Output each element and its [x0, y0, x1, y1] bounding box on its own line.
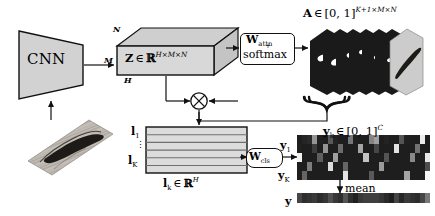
local-feature-first-label: l1	[131, 126, 140, 140]
lk-caption-membership: ∈	[173, 177, 181, 190]
logits-label: yk∈[0, 1]C	[323, 124, 383, 139]
wcls-label: Wcls	[249, 151, 270, 165]
brace-attention-maps	[304, 97, 349, 110]
yk-superscript: C	[377, 123, 382, 132]
lk-caption-superscript: H	[193, 176, 199, 184]
input-image	[28, 120, 113, 175]
z-superscript: H×M×N	[155, 50, 187, 59]
logits-heatmap	[297, 135, 430, 180]
output-vector-label: y	[285, 196, 291, 207]
feature-tensor-label: Z∈ℝH×M×N	[125, 51, 187, 64]
y1-subscript: 1	[286, 146, 290, 154]
heatmap-cell	[425, 144, 430, 153]
yk-membership: ∈	[336, 124, 345, 138]
heatmap-cell	[425, 135, 430, 144]
heatmap-cell	[425, 162, 430, 171]
yK-subscript: K	[284, 176, 289, 184]
local-feature-space-label: lk∈ℝH	[163, 177, 199, 192]
wcls-symbol: W	[249, 150, 261, 162]
yk-symbol: y	[323, 124, 330, 138]
softmax-label: softmax	[243, 49, 287, 60]
multiply-node	[191, 93, 207, 109]
attention-map-background	[390, 29, 423, 95]
lk-caption-space: ℝ	[183, 177, 192, 190]
a-superscript: K+1×M×N	[355, 5, 396, 14]
z-dim-top-label: N	[113, 25, 120, 33]
cnn-label: CNN	[27, 52, 65, 67]
heatmap-cell	[425, 153, 430, 162]
z-membership: ∈	[135, 51, 144, 65]
path-attention-to-multiply-seg	[199, 110, 327, 121]
yk-subscript: k	[330, 131, 334, 140]
output-cell	[425, 193, 430, 203]
mean-operation-label: mean	[345, 183, 376, 194]
a-symbol: A	[303, 6, 312, 20]
attention-tensor-label: A∈[0, 1]K+1×M×N	[303, 6, 397, 19]
attention-map-stack	[310, 29, 423, 95]
heatmap-cell	[425, 171, 430, 180]
lk-caption-subscript: k	[167, 184, 171, 192]
local-feature-last-label: lK	[128, 155, 137, 169]
wcls-subscript: cls	[261, 157, 270, 165]
logits-row-last-label: yK	[278, 170, 290, 184]
z-dim-left-label: M	[104, 56, 113, 64]
a-range: [0, 1]	[324, 6, 355, 20]
local-feature-block	[146, 127, 247, 173]
lk-subscript: K	[132, 161, 137, 169]
wattn-symbol: W	[246, 33, 258, 46]
a-membership: ∈	[314, 6, 323, 20]
z-symbol: Z	[125, 51, 133, 65]
z-dim-bottom-label: H	[124, 76, 132, 84]
yk-range: [0, 1]	[347, 124, 378, 138]
l1-subscript: 1	[135, 132, 139, 140]
logits-row-first-label: y1	[280, 140, 291, 154]
figure-canvas: CNN N M H Z∈ℝH×M×N Wattn + softmax A∈[0,…	[0, 0, 435, 216]
local-feature-ellipsis: ⋮	[136, 141, 145, 150]
